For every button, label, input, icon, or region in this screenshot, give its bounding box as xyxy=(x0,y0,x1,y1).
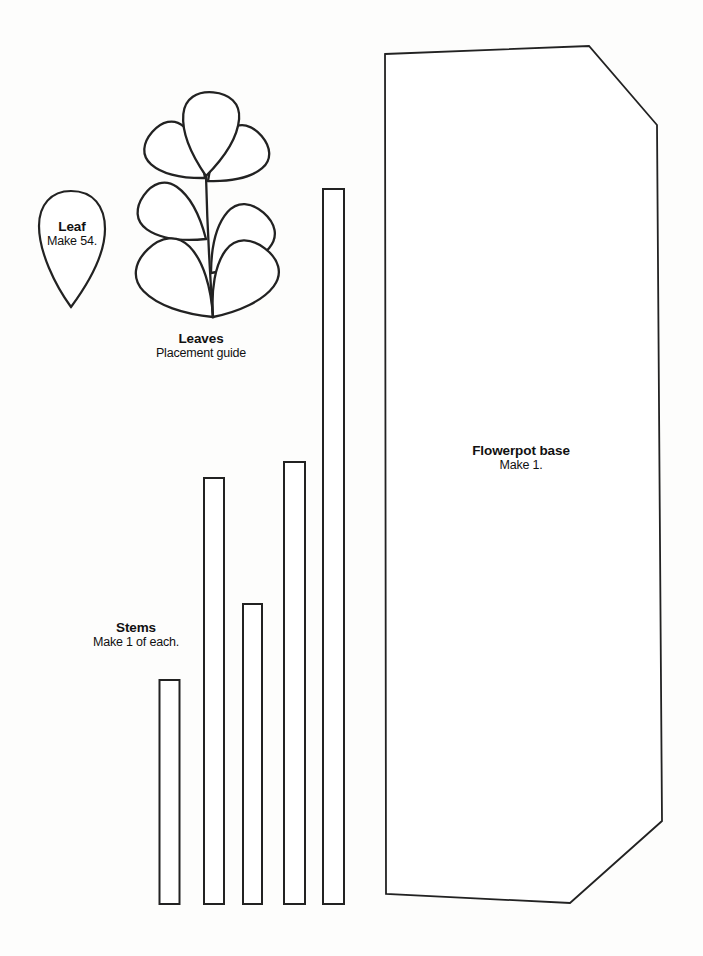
leaf-label: Leaf Make 54. xyxy=(47,219,97,249)
stem-4 xyxy=(284,462,305,904)
pattern-page: Leaf Make 54. Leaves Placement guide Ste… xyxy=(0,0,703,956)
stems-title: Stems xyxy=(93,620,179,635)
pattern-shapes xyxy=(0,0,703,956)
leaves-placement-guide xyxy=(125,90,289,339)
stems-subtitle: Make 1 of each. xyxy=(93,635,179,650)
leaves-guide-title: Leaves xyxy=(156,331,246,346)
leaf-subtitle: Make 54. xyxy=(47,234,97,249)
stem-5 xyxy=(323,189,344,904)
stem-3 xyxy=(243,604,262,904)
flowerpot-base-shape xyxy=(385,46,662,903)
stem-2 xyxy=(204,478,224,904)
leaves-guide-subtitle: Placement guide xyxy=(156,346,246,361)
stem-1 xyxy=(160,680,180,904)
leaf-template-shape xyxy=(39,191,105,307)
flowerpot-subtitle: Make 1. xyxy=(472,458,570,473)
flowerpot-label: Flowerpot base Make 1. xyxy=(472,443,570,473)
leaves-guide-label: Leaves Placement guide xyxy=(156,331,246,361)
flowerpot-title: Flowerpot base xyxy=(472,443,570,458)
leaf-title: Leaf xyxy=(47,219,97,234)
stems-label: Stems Make 1 of each. xyxy=(93,620,179,650)
